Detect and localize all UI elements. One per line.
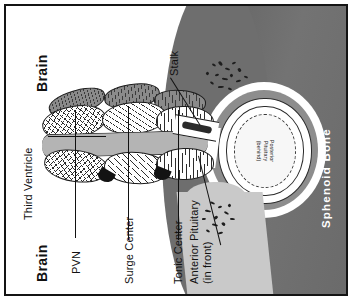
figure-screenshot: Posterior Pituitary (behind) (0, 0, 352, 304)
bone-stipple (230, 218, 235, 221)
third-ventricle-label: Third Ventricle (22, 147, 34, 220)
posterior-pituitary-line1: Posterior (269, 140, 275, 162)
brain-label-bottom: Brain (34, 244, 50, 282)
leader-line-pvn (75, 110, 76, 238)
stalk-label: Stalk (168, 51, 180, 76)
anterior-pituitary-line1: Anterior Pituitary (188, 200, 200, 284)
leader-line-third-ventricle (48, 136, 106, 137)
brain-label-top: Brain (34, 54, 50, 92)
posterior-pituitary-region: Posterior Pituitary (behind) (234, 114, 296, 188)
figure-frame: Posterior Pituitary (behind) (4, 4, 348, 296)
surge-center-label: Surge Center (123, 217, 135, 284)
posterior-pituitary-line2: Pituitary (262, 141, 268, 161)
figure-canvas: Posterior Pituitary (behind) (6, 6, 346, 294)
posterior-pituitary-label: Posterior Pituitary (behind) (255, 140, 274, 162)
tonic-center-label: Tonic Center (172, 220, 184, 284)
sphenoid-bone-label: Sphenoid Bone (320, 128, 332, 228)
anterior-pituitary-label: Anterior Pituitary (in front) (188, 180, 213, 284)
anterior-pituitary-line2: (in front) (201, 242, 213, 284)
posterior-pituitary-line3: (behind) (256, 141, 262, 162)
pvn-label: PVN (70, 251, 82, 274)
